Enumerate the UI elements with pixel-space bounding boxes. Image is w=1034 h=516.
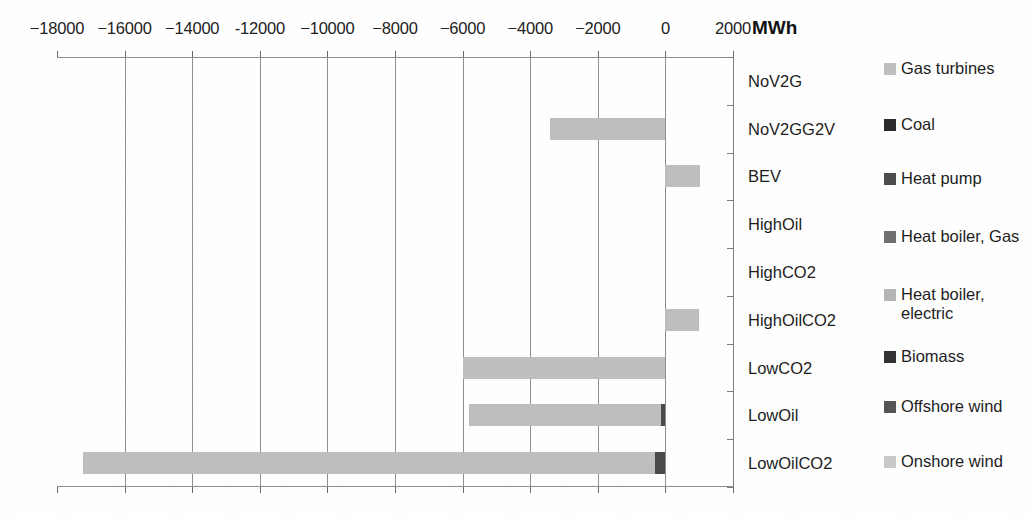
category-axis-tick [727, 344, 734, 345]
category-label: HighCO2 [748, 262, 816, 282]
gridline [327, 57, 328, 487]
legend-color-swatch [884, 119, 896, 131]
x-axis-tick [57, 487, 58, 493]
bar-segment [665, 309, 699, 331]
x-tick-label: −6000 [440, 18, 485, 38]
x-axis-tick [260, 51, 261, 57]
x-axis-tick [598, 51, 599, 57]
x-tick-label: 2000 [715, 18, 751, 38]
legend-label: Biomass [901, 347, 964, 366]
legend-color-swatch [884, 351, 896, 363]
x-axis-tick [125, 487, 126, 493]
x-axis-tick [463, 51, 464, 57]
category-axis-spine [733, 57, 734, 487]
legend-label: Heat pump [901, 169, 982, 188]
x-axis-tick [463, 487, 464, 493]
x-axis-tick [598, 487, 599, 493]
bar-segment [469, 404, 661, 426]
legend-color-swatch [884, 231, 896, 243]
legend-item[interactable]: Heat boiler, electric [884, 285, 1021, 323]
x-axis-tick [530, 487, 531, 493]
legend-color-swatch [884, 456, 896, 468]
plot-area [57, 57, 733, 487]
x-axis-tick [665, 487, 666, 493]
category-label: LowCO2 [748, 358, 812, 378]
category-label: HighOil [748, 214, 802, 234]
category-axis-tick [727, 487, 734, 488]
legend-label: Coal [901, 115, 935, 134]
category-axis-tick [727, 439, 734, 440]
bar-segment [655, 452, 665, 474]
category-axis-tick [727, 105, 734, 106]
bar-segment [665, 165, 699, 187]
category-axis-tick [727, 391, 734, 392]
x-tick-label: −10000 [300, 18, 354, 38]
category-label: LowOil [748, 405, 798, 425]
x-axis-tick [327, 51, 328, 57]
x-axis-tick [395, 51, 396, 57]
legend-label: Onshore wind [901, 452, 1003, 471]
legend-item[interactable]: Coal [884, 115, 935, 134]
x-axis-tick [665, 51, 666, 57]
x-axis-tick [57, 51, 58, 57]
category-label: HighOilCO2 [748, 310, 836, 330]
category-axis-tick [727, 153, 734, 154]
legend-label: Heat boiler, Gas [901, 227, 1019, 246]
legend-item[interactable]: Biomass [884, 347, 964, 366]
x-tick-label: 0 [661, 18, 670, 38]
x-tick-label: −14000 [165, 18, 219, 38]
x-axis-tick [125, 51, 126, 57]
legend-color-swatch [884, 173, 896, 185]
bar-segment [550, 118, 665, 140]
x-tick-label: −18000 [30, 18, 84, 38]
legend-item[interactable]: Onshore wind [884, 452, 1003, 471]
category-label: NoV2G [748, 71, 802, 91]
axis-unit-label: MWh [752, 18, 797, 38]
x-axis-tick [260, 487, 261, 493]
x-axis-tick [192, 487, 193, 493]
legend-label: Offshore wind [901, 397, 1003, 416]
x-axis-tick [192, 51, 193, 57]
x-axis-tick [395, 487, 396, 493]
gridline [463, 57, 464, 487]
legend-color-swatch [884, 401, 896, 413]
category-label: LowOilCO2 [748, 453, 832, 473]
gridline [192, 57, 193, 487]
legend-item[interactable]: Heat pump [884, 169, 982, 188]
legend-item[interactable]: Gas turbines [884, 59, 995, 78]
x-tick-label: −16000 [97, 18, 151, 38]
x-axis-tick-labels: −18000−16000−14000-12000−10000−8000−6000… [0, 18, 1034, 40]
gridline [395, 57, 396, 487]
category-axis-tick [727, 200, 734, 201]
x-tick-label: −2000 [575, 18, 620, 38]
legend-color-swatch [884, 289, 896, 301]
bar-segment [463, 357, 666, 379]
category-axis-tick [727, 248, 734, 249]
legend-label: Heat boiler, electric [901, 285, 1021, 323]
gridline [665, 57, 666, 487]
x-axis-tick [530, 51, 531, 57]
category-axis-tick [727, 296, 734, 297]
category-axis-tick [727, 57, 734, 58]
legend-item[interactable]: Heat boiler, Gas [884, 227, 1019, 246]
legend-label: Gas turbines [901, 59, 995, 78]
x-tick-label: −8000 [372, 18, 417, 38]
bar-segment [661, 404, 665, 426]
x-tick-label: -12000 [235, 18, 285, 38]
bar-chart: −18000−16000−14000-12000−10000−8000−6000… [0, 0, 1034, 516]
bar-segment [83, 452, 655, 474]
legend-item[interactable]: Offshore wind [884, 397, 1003, 416]
chart-legend: Gas turbinesCoalHeat pumpHeat boiler, Ga… [884, 57, 1034, 497]
gridline [260, 57, 261, 487]
legend-color-swatch [884, 63, 896, 75]
x-axis-tick [327, 487, 328, 493]
category-label: BEV [748, 166, 781, 186]
gridline [125, 57, 126, 487]
x-tick-label: −4000 [508, 18, 553, 38]
category-label: NoV2GG2V [748, 119, 835, 139]
